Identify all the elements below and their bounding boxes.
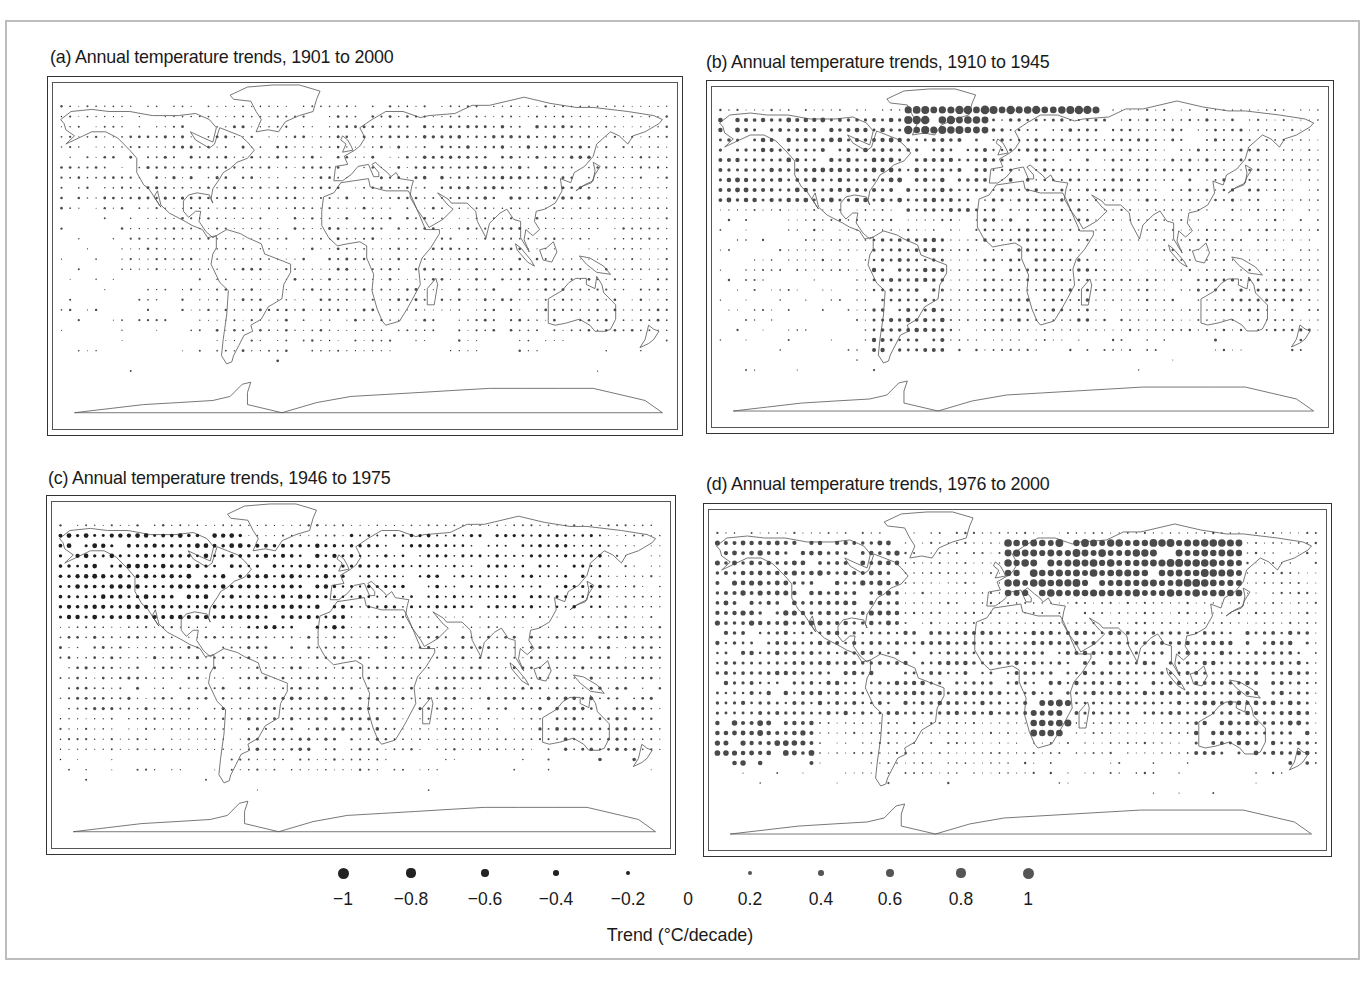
trend-dot <box>1086 199 1088 201</box>
trend-dot <box>367 707 370 710</box>
trend-dot <box>471 657 472 658</box>
trend-dot <box>846 158 850 162</box>
trend-dot <box>599 575 601 577</box>
trend-dot <box>285 329 287 331</box>
trend-dot <box>393 585 396 588</box>
trend-dot <box>501 248 504 251</box>
trend-dot <box>493 237 495 239</box>
trend-dot <box>290 584 294 588</box>
trend-dot <box>1086 279 1089 282</box>
trend-dot <box>402 554 405 557</box>
trend-dot <box>1211 731 1215 735</box>
trend-dot <box>1013 540 1020 547</box>
trend-dot <box>359 697 362 700</box>
trend-dot <box>199 248 200 249</box>
trend-dot <box>1164 259 1165 260</box>
trend-dot <box>865 109 866 110</box>
trend-dot <box>359 606 361 608</box>
trend-dot <box>1142 540 1148 546</box>
trend-dot <box>744 178 748 182</box>
trend-dot <box>161 615 165 619</box>
trend-dot <box>878 631 881 634</box>
trend-dot <box>827 571 831 575</box>
trend-dot <box>745 269 746 270</box>
trend-dot <box>243 320 244 321</box>
trend-dot <box>217 208 218 209</box>
trend-dot <box>162 748 164 750</box>
trend-dot <box>1138 159 1140 161</box>
trend-dot <box>1070 329 1071 330</box>
trend-dot <box>467 116 468 117</box>
trend-dot <box>1044 309 1046 311</box>
trend-dot <box>453 586 455 588</box>
trend-dot <box>1164 339 1166 341</box>
trend-dot <box>984 349 985 350</box>
trend-dot <box>433 309 434 310</box>
trend-dot <box>1271 721 1275 725</box>
trend-dot <box>852 591 856 595</box>
trend-dot <box>548 677 550 679</box>
trend-dot <box>728 219 730 221</box>
trend-dot <box>1076 722 1077 723</box>
trend-dot <box>666 115 668 117</box>
trend-dot <box>441 228 442 229</box>
trend-dot <box>1078 199 1081 202</box>
trend-dot <box>471 636 473 638</box>
trend-dot <box>805 109 807 111</box>
trend-dot <box>964 582 966 584</box>
trend-dot <box>1264 532 1265 533</box>
trend-dot <box>394 555 396 557</box>
trend-dot <box>110 707 113 710</box>
trend-dot <box>1257 159 1259 161</box>
trend-dot <box>924 188 927 191</box>
trend-dot <box>316 615 319 618</box>
trend-dot <box>913 752 914 753</box>
trend-dot <box>528 299 530 301</box>
trend-dot <box>402 656 405 659</box>
trend-dot <box>1281 622 1282 623</box>
trend-dot <box>1309 119 1310 120</box>
trend-dot <box>907 339 910 342</box>
trend-dot <box>981 106 990 115</box>
trend-dot <box>939 552 941 554</box>
trend-dot <box>285 309 288 312</box>
trend-dot <box>1129 179 1131 181</box>
trend-dot <box>1280 711 1284 715</box>
trend-dot <box>467 227 470 230</box>
trend-dot <box>905 582 907 584</box>
trend-dot <box>1169 732 1171 734</box>
trend-dot <box>1007 632 1010 635</box>
trend-dot <box>640 136 641 137</box>
trend-dot <box>775 541 780 546</box>
trend-dot <box>376 544 379 547</box>
trend-dot <box>536 278 538 280</box>
trend-dot <box>963 631 967 635</box>
trend-dot <box>423 217 426 220</box>
trend-dot <box>758 561 762 565</box>
trend-dot <box>277 269 278 270</box>
trend-dot <box>102 707 105 710</box>
trend-dot <box>251 197 253 199</box>
trend-dot <box>1086 349 1088 351</box>
trend-dot <box>1033 602 1034 603</box>
trend-dot <box>238 615 242 619</box>
trend-dot <box>827 672 830 675</box>
trend-dot <box>230 594 234 598</box>
trend-dot <box>531 728 532 729</box>
trend-dot <box>641 707 644 710</box>
trend-dot <box>1078 129 1081 132</box>
trend-dot <box>616 555 618 557</box>
trend-dot <box>351 627 352 628</box>
trend-dot <box>754 309 756 311</box>
trend-dot <box>136 554 140 558</box>
trend-dot <box>992 319 994 321</box>
trend-dot <box>887 631 890 634</box>
trend-dot <box>251 238 252 239</box>
trend-dot <box>1004 559 1012 567</box>
trend-dot <box>1317 179 1318 180</box>
trend-dot <box>1147 250 1148 251</box>
trend-dot <box>1018 129 1021 132</box>
trend-dot <box>1291 299 1294 302</box>
trend-dot <box>144 554 148 558</box>
trend-dot <box>640 299 642 301</box>
